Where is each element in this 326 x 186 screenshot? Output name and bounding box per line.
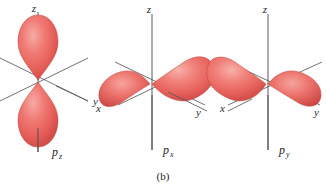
p-x-orbital-label-subscript: x <box>169 150 174 159</box>
figure-caption: (b) <box>157 170 170 183</box>
p-y-axis-label-y: y <box>313 106 319 118</box>
p-z-orbital: z y p z <box>0 2 98 161</box>
p-x-axis-label-x: x <box>95 102 101 114</box>
p-y-orbital-label: p <box>278 143 285 157</box>
p-z-axis-y-tip <box>56 86 88 101</box>
p-y-orbital-label-subscript: y <box>285 150 290 159</box>
orbital-diagram-svg: z y p z z y x p x <box>0 0 326 186</box>
p-x-orbital: z y x p x <box>95 3 215 159</box>
p-x-axis-label-z: z <box>146 3 152 15</box>
orbital-figure: z y p z z y x p x <box>0 0 326 186</box>
p-y-axis-label-x: x <box>219 102 225 114</box>
p-y-orbital: z y x p y <box>207 3 322 159</box>
p-x-orbital-label: p <box>162 143 169 157</box>
p-x-axis-label-y: y <box>195 106 201 118</box>
p-y-lobe-negative <box>207 57 266 101</box>
p-y-axis-label-z: z <box>262 3 268 15</box>
p-z-axis-label-z: z <box>31 2 37 14</box>
p-y-lobe-positive <box>268 71 321 106</box>
p-z-lobe-upper <box>18 15 58 80</box>
p-x-lobe-positive <box>152 57 215 101</box>
p-z-orbital-label: p <box>51 145 58 159</box>
p-z-orbital-label-subscript: z <box>58 152 63 161</box>
p-x-lobe-negative <box>99 71 150 107</box>
